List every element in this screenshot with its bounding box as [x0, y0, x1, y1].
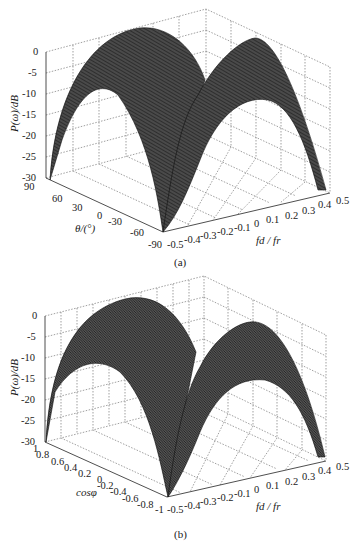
panel-caption: (a): [174, 256, 186, 268]
x-tick: -0.3: [200, 497, 217, 508]
x-tick: -0.3: [200, 231, 217, 242]
y-tick: -1: [155, 505, 164, 516]
z-tick: -25: [22, 152, 36, 163]
y-tick: 30: [72, 203, 83, 214]
y-tick: -30: [108, 217, 122, 228]
x-tick: -0.1: [234, 489, 251, 500]
y-tick: -0.8: [137, 500, 154, 511]
x-axis-label: fd / fr: [256, 234, 280, 246]
x-tick: 0.1: [266, 481, 279, 492]
x-tick: -0.5: [167, 240, 184, 251]
chart-panel-a: 0 -5 -10 -15 -20 -25 -30 P(ω)/dB 90 60 3…: [0, 0, 359, 272]
x-tick: -0.4: [184, 235, 201, 246]
x-tick: -0.2: [217, 493, 234, 504]
x-tick: 0.2: [285, 211, 298, 222]
z-tick: -5: [28, 68, 37, 79]
surface-plot-a: [0, 0, 359, 272]
x-tick: -0.1: [234, 223, 251, 234]
z-axis-label: P(ω)/dB: [8, 359, 20, 396]
x-tick: 0.5: [336, 196, 349, 207]
z-tick: -10: [22, 89, 36, 100]
z-tick: 0: [32, 311, 37, 322]
y-tick: -60: [130, 228, 144, 239]
y-tick: 0: [97, 211, 102, 222]
x-tick: -0.2: [217, 227, 234, 238]
y-tick: 0.4: [64, 463, 77, 474]
z-tick: 0: [33, 47, 38, 58]
z-tick: -20: [21, 395, 35, 406]
x-tick: 0.3: [302, 472, 315, 483]
panel-caption: (b): [174, 528, 187, 540]
x-tick: -0.5: [167, 505, 184, 516]
y-tick: 0.6: [51, 457, 64, 468]
z-axis-label: P(ω)/dB: [8, 95, 20, 132]
y-tick: 0.8: [36, 450, 49, 461]
z-tick: -10: [21, 353, 35, 364]
x-tick: 0.3: [302, 206, 315, 217]
chart-panel-b: 0 -5 -10 -15 -20 -25 -30 P(ω)/dB 1 0.8 0…: [0, 272, 359, 545]
x-tick: 0.5: [336, 462, 349, 473]
z-tick: -5: [27, 332, 36, 343]
x-tick: 0.2: [285, 477, 298, 488]
x-tick: 0.1: [266, 215, 279, 226]
y-axis-label: θ/(°): [75, 222, 95, 234]
y-tick: 90: [24, 182, 35, 193]
y-tick: 60: [52, 194, 63, 205]
z-tick: -20: [22, 131, 36, 142]
y-tick: -90: [148, 240, 162, 251]
x-tick: 0: [254, 219, 259, 230]
x-tick: 0: [254, 485, 259, 496]
z-tick: -25: [21, 416, 35, 427]
x-tick: 0.4: [318, 466, 331, 477]
x-axis-label: fd / fr: [256, 500, 280, 512]
y-tick: 0.2: [78, 469, 91, 480]
z-tick: -15: [22, 110, 36, 121]
x-tick: 0.4: [318, 200, 331, 211]
x-tick: -0.4: [184, 501, 201, 512]
z-tick: -15: [21, 374, 35, 385]
y-axis-label: cosφ: [76, 486, 97, 498]
